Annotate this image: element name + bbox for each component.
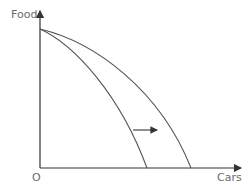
x-axis-label: Cars [217, 171, 242, 184]
origin-label: O [32, 171, 41, 184]
ppf-diagram: Food O Cars [0, 0, 250, 185]
y-axis-label: Food [11, 8, 37, 21]
shifted-ppf-curve [40, 29, 191, 168]
original-ppf-curve [40, 29, 147, 168]
